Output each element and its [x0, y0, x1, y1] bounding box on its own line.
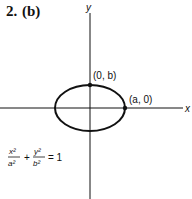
x-axis-label: x — [184, 103, 191, 114]
eq-x-numerator: x² — [8, 147, 16, 156]
point-label-a-0: (a, 0) — [129, 94, 152, 105]
point-a-0 — [123, 106, 127, 110]
eq-x-denominator: a² — [8, 159, 15, 168]
point-label-0-b: (0, b) — [93, 70, 116, 81]
problem-part: (b) — [22, 3, 40, 20]
ellipse-equation: x² a² + y² b² = 1 — [8, 147, 63, 168]
problem-number: 2. — [6, 3, 18, 19]
point-0-b — [88, 83, 92, 87]
eq-y-denominator: b² — [33, 159, 40, 168]
eq-plus: + — [24, 152, 30, 163]
ellipse-diagram: 2. (b) y x (0, b) (a, 0) x² a² + y² b² =… — [0, 0, 192, 199]
eq-rhs: = 1 — [48, 152, 63, 163]
y-axis-label: y — [85, 2, 92, 13]
eq-y-numerator: y² — [33, 147, 41, 156]
